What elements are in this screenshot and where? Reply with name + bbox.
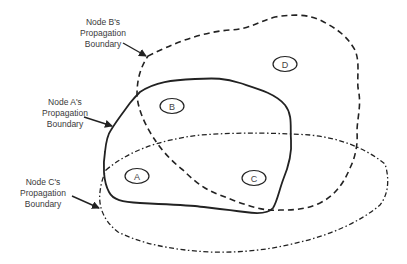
label-c-line2: Propagation: [8, 188, 78, 199]
node-c-boundary: [100, 133, 388, 252]
label-b-line1: Node B's: [68, 17, 138, 28]
label-a-line3: Boundary: [30, 119, 100, 130]
label-c-line1: Node C's: [8, 177, 78, 188]
node-a-label: A: [134, 172, 140, 182]
node-b-boundary-label: Node B's Propagation Boundary: [68, 17, 138, 50]
node-c-boundary-label: Node C's Propagation Boundary: [8, 177, 78, 210]
node-c: C: [242, 171, 266, 186]
node-a-boundary: [104, 78, 291, 213]
label-c-line3: Boundary: [8, 199, 78, 210]
node-a: A: [125, 169, 149, 184]
label-a-line2: Propagation: [30, 108, 100, 119]
node-b-label: B: [169, 102, 175, 112]
node-d: D: [273, 57, 297, 72]
node-b: B: [160, 99, 184, 114]
label-b-line3: Boundary: [68, 39, 138, 50]
node-d-label: D: [282, 60, 289, 70]
node-c-label: C: [251, 174, 258, 184]
node-b-boundary: [137, 15, 360, 210]
propagation-boundary-diagram: A B C D: [0, 0, 407, 264]
node-a-boundary-label: Node A's Propagation Boundary: [30, 97, 100, 130]
label-b-line2: Propagation: [68, 28, 138, 39]
label-a-line1: Node A's: [30, 97, 100, 108]
